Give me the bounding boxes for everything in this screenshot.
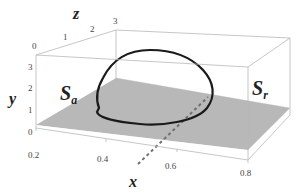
- z-tick-2: 2: [90, 24, 95, 34]
- x-tick-0.8: 0.8: [240, 168, 252, 178]
- bounding-box-back: [36, 30, 290, 82]
- x-axis-label: x: [128, 173, 137, 190]
- y-tick-0: 0: [28, 127, 33, 137]
- y-tick-3: 3: [28, 62, 33, 72]
- z-tick-1: 1: [63, 32, 68, 42]
- y-tick-2: 2: [28, 83, 33, 93]
- y-axis-label: y: [7, 90, 17, 108]
- z-tick-3: 3: [113, 16, 118, 26]
- x-tick-0.4: 0.4: [97, 154, 109, 164]
- 3d-plot: 0.2 0.4 0.6 0.8 0 1 2 3 0 1 2 3 x y z Sa…: [0, 0, 300, 195]
- x-tick-0.2: 0.2: [28, 150, 39, 160]
- y-tick-1: 1: [28, 105, 33, 115]
- z-axis-label: z: [72, 5, 80, 22]
- region-label-sr: Sr: [252, 77, 268, 102]
- y-axis-ticks: 0 1 2 3: [28, 62, 33, 137]
- z-tick-0: 0: [32, 41, 37, 51]
- region-label-sa: Sa: [60, 82, 77, 107]
- x-tick-0.6: 0.6: [165, 161, 177, 171]
